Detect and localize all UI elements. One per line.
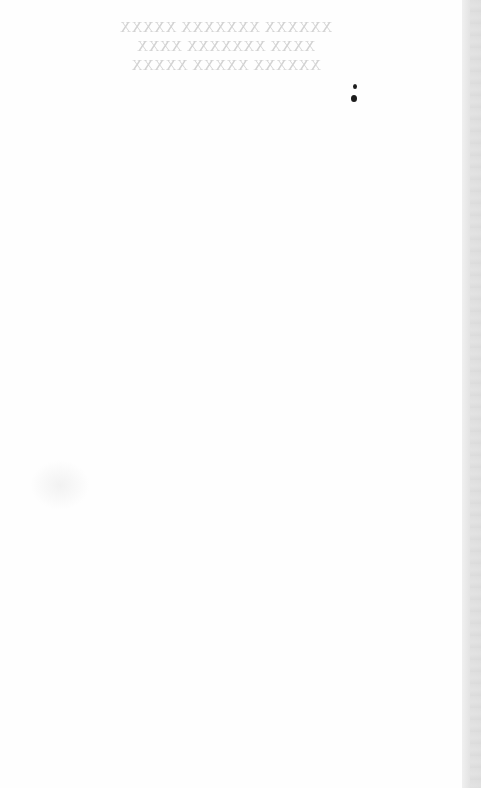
ghost-line-1: XXXXXX XXXXXXX XXXXX: [96, 18, 356, 37]
ink-speck: [351, 95, 357, 102]
scanned-page: XXXXXX XXXXXXX XXXXX XXXX XXXXXXX XXXX X…: [0, 0, 462, 788]
paper-smudge: [30, 460, 90, 510]
ghost-line-3: XXXXXX XXXXX XXXXX: [96, 56, 356, 75]
ink-speck: [353, 84, 357, 89]
show-through-text: XXXXXX XXXXXXX XXXXX XXXX XXXXXXX XXXX X…: [96, 18, 356, 75]
page-edge-texture: [470, 0, 481, 788]
ghost-line-2: XXXX XXXXXXX XXXX: [96, 37, 356, 56]
